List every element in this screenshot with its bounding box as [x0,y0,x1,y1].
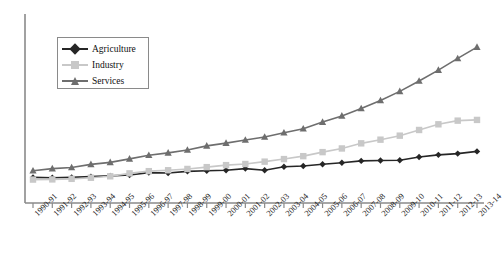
data-point-marker [107,173,113,179]
series-industry [30,117,480,183]
data-point-marker [358,158,364,164]
data-point-marker [454,150,460,156]
data-point-marker [223,162,229,168]
series-line [33,120,477,180]
data-point-marker [474,117,480,123]
chart-legend: Agriculture Industry Services [57,37,149,89]
legend-item-services: Services [62,73,124,88]
data-point-marker [435,66,442,73]
data-point-marker [416,127,422,133]
data-point-marker [49,176,55,182]
data-point-marker [204,164,210,170]
data-point-marker [339,145,345,151]
series-line [33,151,477,177]
data-point-marker [319,149,325,155]
data-point-marker [261,158,267,164]
data-point-marker [165,167,171,173]
data-point-marker [377,136,383,142]
data-point-marker [435,152,441,158]
data-point-marker [30,176,36,182]
data-point-marker [339,160,345,166]
data-point-marker [454,55,461,62]
data-point-marker [397,132,403,138]
data-point-marker [300,153,306,159]
legend-item-industry: Industry [62,57,124,72]
data-point-marker [377,157,383,163]
legend-item-agriculture: Agriculture [62,41,136,56]
data-point-marker [435,121,441,127]
data-point-marker [358,140,364,146]
data-point-marker [146,168,152,174]
data-point-marker [319,161,325,167]
data-point-marker [474,148,480,154]
legend-label-agriculture: Agriculture [92,43,136,55]
data-point-marker [242,161,248,167]
legend-marker-industry [62,59,88,71]
triangle-icon [71,77,79,85]
data-point-marker [397,157,403,163]
legend-marker-agriculture [62,43,88,55]
data-point-marker [68,176,74,182]
data-point-marker [281,164,287,170]
data-point-marker [281,156,287,162]
legend-label-services: Services [92,75,124,87]
data-point-marker [416,154,422,160]
data-point-marker [261,167,267,173]
data-point-marker [454,117,460,123]
series-agriculture [30,148,480,181]
legend-label-industry: Industry [92,59,124,71]
data-point-marker [184,166,190,172]
data-point-marker [300,163,306,169]
legend-marker-services [62,75,88,87]
data-point-marker [88,175,94,181]
data-point-marker [126,170,132,176]
data-point-marker [473,43,480,50]
